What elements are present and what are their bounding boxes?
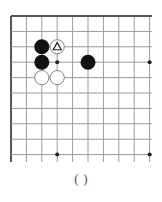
grid-lines [11,16,152,162]
white-stone [50,40,64,54]
white-stone [50,71,64,85]
star-point [148,153,152,157]
go-board [0,0,162,170]
black-stone [34,39,49,54]
star-point [55,153,59,157]
black-stone [34,55,49,70]
answer-blank-caption: ( ) [0,172,162,192]
black-stone [81,55,96,70]
star-point [55,60,59,64]
white-stone [35,71,49,85]
star-point [148,60,152,64]
